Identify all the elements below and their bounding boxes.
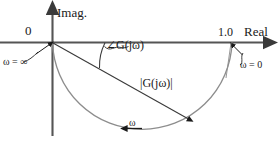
sweep-direction-label: ω <box>129 118 136 128</box>
phase-angle-label: ∠G(jω) <box>106 39 144 51</box>
origin-label: 0 <box>25 24 32 37</box>
imaginary-axis-label: Imag. <box>57 6 87 19</box>
nyquist-plot-figure: Imag. Real 0 1.0 ω = ∞ ω = 0 ∠G(jω) |G(j… <box>0 0 280 150</box>
real-axis-label: Real <box>244 25 268 38</box>
magnitude-label: |G(jω)| <box>140 77 173 89</box>
omega-infinity-label: ω = ∞ <box>3 57 27 67</box>
real-axis-tick-label: 1.0 <box>218 26 233 38</box>
phase-angle-arc <box>99 43 105 68</box>
omega-zero-label: ω = 0 <box>240 60 262 70</box>
omega-infinity-leader <box>24 45 50 63</box>
plot-vector-graphics <box>0 0 280 150</box>
